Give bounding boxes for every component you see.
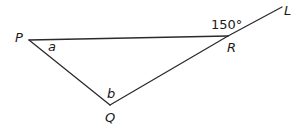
vertex-label-r: R — [227, 40, 236, 55]
segment-qr — [110, 36, 228, 105]
vertex-label-q: Q — [105, 110, 115, 125]
line-end-label-l: L — [284, 3, 291, 18]
segment-pq — [29, 40, 110, 105]
angle-label-exterior-r: 150° — [211, 17, 242, 32]
triangle-diagram: P Q R L a b 150° — [0, 0, 302, 130]
vertex-label-p: P — [15, 30, 23, 45]
angle-label-b: b — [107, 86, 115, 101]
angle-label-a: a — [48, 39, 56, 54]
segment-pr — [29, 36, 228, 40]
